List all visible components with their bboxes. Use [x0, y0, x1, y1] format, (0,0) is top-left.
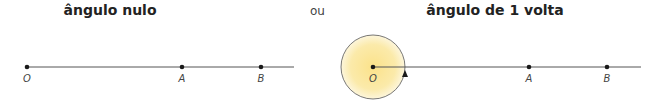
- point-b-right: [605, 65, 610, 70]
- label-o-right: O: [369, 73, 377, 84]
- label-a-left: A: [179, 73, 186, 84]
- point-o-left: [25, 65, 30, 70]
- label-o-left: O: [23, 73, 31, 84]
- point-b-left: [259, 65, 264, 70]
- point-o-right: [371, 65, 376, 70]
- label-a-right: A: [526, 73, 533, 84]
- point-a-left: [180, 65, 185, 70]
- point-a-right: [527, 65, 532, 70]
- title-null-angle: ângulo nulo: [63, 2, 156, 18]
- separator-text: ou: [310, 4, 325, 18]
- title-full-turn-angle: ângulo de 1 volta: [426, 2, 563, 18]
- label-b-left: B: [258, 73, 265, 84]
- label-b-right: B: [604, 73, 611, 84]
